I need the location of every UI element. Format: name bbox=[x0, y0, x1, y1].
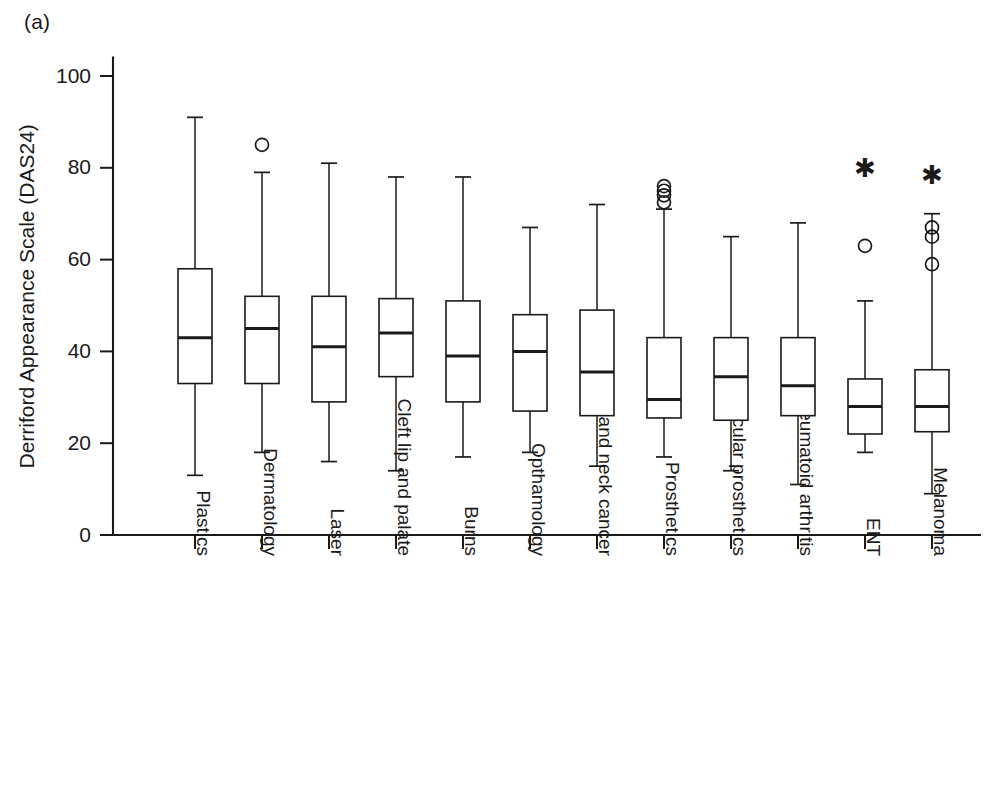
x-axis-tick-label: ENT bbox=[863, 518, 884, 556]
extreme-outlier-point: ✱ bbox=[854, 153, 876, 183]
y-axis-tick-label: 60 bbox=[68, 247, 91, 270]
extreme-outlier-point: ✱ bbox=[921, 160, 943, 190]
figure-root: (a) 020406080100Derriford Appearance Sca… bbox=[0, 0, 1004, 792]
y-axis-tick-label: 100 bbox=[56, 64, 91, 87]
box-iqr bbox=[312, 296, 346, 402]
x-axis-tick-label: Plastics bbox=[193, 491, 214, 556]
y-axis-tick-label: 0 bbox=[79, 523, 91, 546]
y-axis-tick-label: 80 bbox=[68, 155, 91, 178]
y-axis-title: Derriford Appearance Scale (DAS24) bbox=[15, 124, 38, 468]
box-iqr bbox=[647, 338, 681, 418]
x-axis-tick-label: Melanoma bbox=[930, 467, 951, 556]
box-iqr bbox=[580, 310, 614, 416]
y-axis-tick-label: 40 bbox=[68, 339, 91, 362]
x-axis-tick-label: Ocular prosthetics bbox=[729, 403, 750, 556]
x-axis-tick-label: Burns bbox=[461, 506, 482, 556]
box-iqr bbox=[178, 269, 212, 384]
x-axis-tick-label: Opthamology bbox=[528, 443, 549, 557]
box-iqr bbox=[915, 370, 949, 432]
y-axis-tick-label: 20 bbox=[68, 431, 91, 454]
boxplot-chart: 020406080100Derriford Appearance Scale (… bbox=[0, 0, 1004, 792]
x-axis-tick-label: Prosthetics bbox=[662, 462, 683, 556]
outlier-point bbox=[256, 138, 269, 151]
x-axis-tick-label: Dermatology bbox=[260, 448, 281, 556]
outlier-point bbox=[859, 239, 872, 252]
box-iqr bbox=[714, 338, 748, 421]
x-axis-tick-label: Laser bbox=[327, 508, 348, 556]
box-iqr bbox=[781, 338, 815, 416]
box-iqr bbox=[446, 301, 480, 402]
box-iqr bbox=[513, 315, 547, 411]
x-axis-tick-label: Cleft lip and palate bbox=[394, 399, 415, 556]
box-iqr bbox=[379, 299, 413, 377]
box-iqr bbox=[245, 296, 279, 383]
